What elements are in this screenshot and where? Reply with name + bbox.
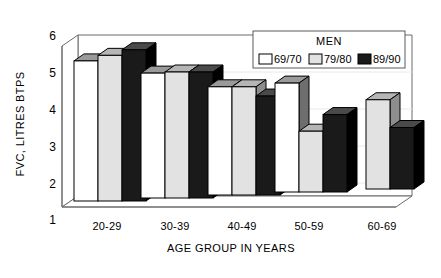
y-tick-4: 4 [49, 103, 56, 117]
bar-group-60-69 [366, 93, 424, 189]
y-tick-5: 5 [49, 66, 56, 80]
legend: MEN 69/70 79/80 89/90 [253, 31, 405, 68]
legend-swatch-89-90 [358, 54, 371, 64]
x-tick-60-69: 60-69 [367, 220, 396, 232]
bar-chart-svg: 6 5 4 3 2 1 [0, 0, 441, 278]
legend-swatch-79-80 [309, 54, 322, 64]
legend-label-79-80: 79/80 [324, 53, 352, 65]
x-tick-40-49: 40-49 [227, 220, 256, 232]
y-tick-6: 6 [49, 29, 56, 43]
y-tick-2: 2 [49, 177, 56, 191]
x-axis-title: AGE GROUP IN YEARS [167, 242, 295, 254]
legend-label-69-70: 69/70 [274, 53, 302, 65]
y-axis-title: FVC, LITRES BTPS [14, 72, 26, 177]
x-tick-30-39: 30-39 [160, 220, 189, 232]
legend-swatch-69-70 [259, 54, 272, 64]
x-tick-20-29: 20-29 [92, 220, 121, 232]
x-tick-50-59: 50-59 [294, 220, 323, 232]
bar-60-69-89-90 [390, 121, 424, 190]
chart-container: 6 5 4 3 2 1 [0, 0, 441, 278]
x-axis-categories: 20-29 30-39 40-49 50-59 60-69 [92, 220, 396, 232]
legend-title: MEN [316, 35, 342, 47]
y-tick-3: 3 [49, 140, 56, 154]
bar-50-59-89-90 [323, 108, 357, 192]
y-axis: 6 5 4 3 2 1 [49, 29, 56, 227]
legend-label-89-90: 89/90 [373, 53, 401, 65]
y-tick-1: 1 [49, 213, 56, 227]
